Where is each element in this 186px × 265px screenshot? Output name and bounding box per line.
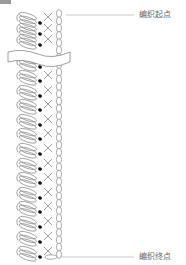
chain-link-icon — [56, 24, 61, 32]
chain-link-icon — [56, 97, 61, 105]
loop-cluster-icon — [15, 10, 39, 28]
stitch-row — [15, 32, 52, 50]
chain-link-icon — [56, 156, 61, 164]
stitch-row — [15, 112, 52, 130]
loop-cluster-icon — [15, 156, 39, 174]
slip-stitch-dot-icon — [37, 32, 42, 37]
chain-link-icon — [56, 243, 61, 251]
single-crochet-x-icon — [44, 115, 52, 123]
single-crochet-x-icon — [44, 100, 52, 108]
start-point-label: 编织起点 — [139, 10, 171, 20]
single-crochet-x-icon — [44, 202, 52, 210]
single-crochet-x-icon — [44, 173, 52, 181]
single-crochet-x-icon — [44, 159, 52, 167]
stitch-row — [15, 185, 52, 203]
slip-stitch-dot-icon — [37, 181, 42, 186]
end-point-label: 编织终点 — [139, 252, 171, 262]
loop-cluster-icon — [15, 83, 39, 101]
chain-link-icon — [56, 163, 61, 171]
stitch-row — [15, 244, 52, 262]
loop-cluster-icon — [15, 185, 39, 203]
chain-link-icon — [56, 229, 61, 237]
single-crochet-x-icon — [44, 217, 52, 225]
chain-link-icon — [56, 148, 61, 156]
slip-stitch-dot-icon — [37, 79, 42, 84]
chain-link-icon — [56, 192, 61, 200]
single-crochet-x-icon — [44, 144, 52, 152]
crochet-chart — [0, 0, 186, 265]
stitch-row — [15, 214, 52, 232]
slip-stitch-dot-icon — [37, 43, 42, 48]
stitch-row — [15, 83, 52, 101]
chain-link-icon — [56, 90, 61, 98]
chain-link-icon — [56, 207, 61, 215]
chain-link-icon — [56, 134, 61, 142]
slip-stitch-dot-icon — [37, 255, 42, 260]
chain-link-icon — [56, 17, 61, 25]
chain-link-icon — [56, 178, 61, 186]
loop-cluster-icon — [15, 214, 39, 232]
chain-link-icon — [56, 75, 61, 83]
single-crochet-x-icon — [44, 232, 52, 240]
chain-link-icon — [56, 39, 61, 47]
single-crochet-x-icon — [44, 129, 52, 137]
chain-link-icon — [56, 199, 61, 207]
stitch-row — [15, 141, 52, 159]
slip-stitch-dot-icon — [37, 225, 42, 230]
chain-link-icon — [56, 126, 61, 134]
loop-cluster-icon — [15, 244, 39, 262]
chain-link-icon — [56, 221, 61, 229]
slip-stitch-dot-icon — [37, 21, 42, 26]
chain-link-icon — [56, 83, 61, 91]
chain-link-icon — [56, 236, 61, 244]
loop-cluster-icon — [15, 112, 39, 130]
chain-link-icon — [56, 170, 61, 178]
single-crochet-x-icon — [44, 247, 52, 255]
slip-stitch-dot-icon — [37, 240, 42, 245]
slip-stitch-dot-icon — [37, 167, 42, 172]
slip-stitch-dot-icon — [37, 196, 42, 201]
chain-link-icon — [56, 112, 61, 120]
chain-link-icon — [56, 141, 61, 149]
slip-stitch-dot-icon — [37, 108, 42, 113]
chain-link-icon — [56, 32, 61, 40]
slip-stitch-dot-icon — [37, 94, 42, 99]
single-crochet-x-icon — [44, 86, 52, 94]
loop-cluster-icon — [15, 141, 39, 159]
slip-stitch-dot-icon — [37, 210, 42, 215]
chain-link-icon — [56, 214, 61, 222]
slip-stitch-dot-icon — [37, 123, 42, 128]
chain-link-icon — [56, 10, 61, 18]
chain-link-icon — [56, 119, 61, 127]
single-crochet-x-icon — [44, 24, 52, 32]
slip-stitch-dot-icon — [37, 137, 42, 142]
loop-cluster-icon — [15, 229, 39, 247]
single-crochet-x-icon — [44, 71, 52, 79]
single-crochet-x-icon — [44, 13, 52, 21]
single-crochet-x-icon — [44, 35, 52, 43]
chain-link-icon — [56, 185, 61, 193]
chain-link-icon — [56, 105, 61, 113]
stitch-row — [15, 156, 52, 174]
chain-link-icon — [56, 68, 61, 76]
chain-link-icon — [56, 46, 61, 54]
stitch-row — [15, 229, 52, 247]
chain-link-icon — [45, 255, 57, 259]
stitch-rows — [15, 10, 52, 262]
slip-stitch-dot-icon — [37, 152, 42, 157]
single-crochet-x-icon — [44, 188, 52, 196]
